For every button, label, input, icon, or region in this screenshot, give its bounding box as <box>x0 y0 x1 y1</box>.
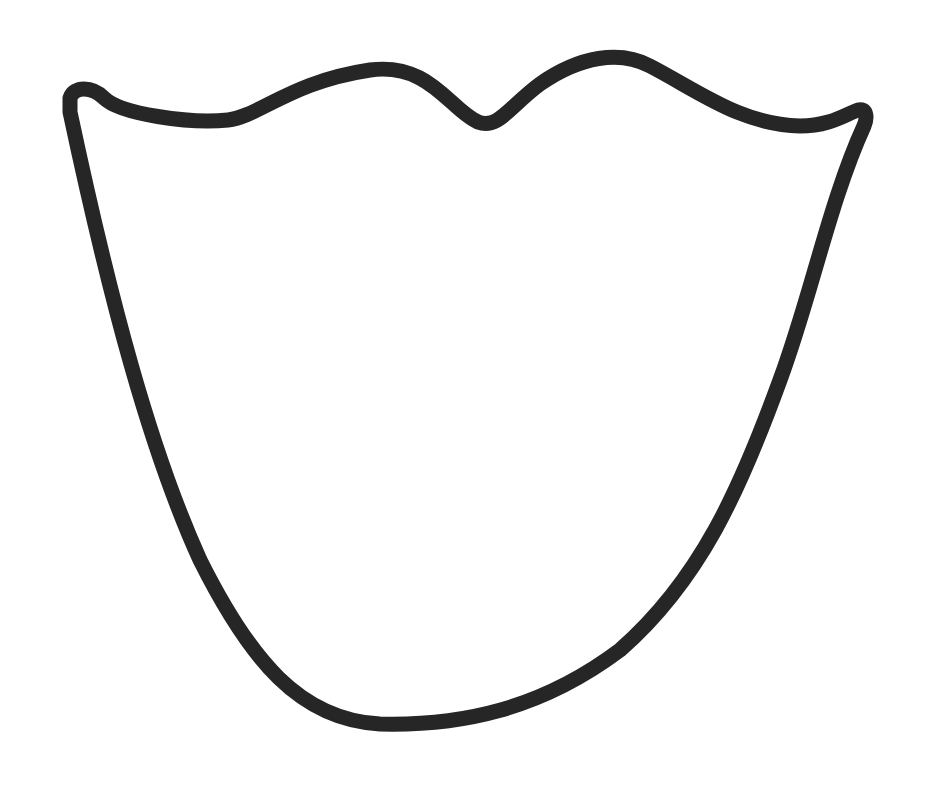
lips-outline-shape <box>70 57 866 724</box>
drawing-canvas <box>0 0 928 786</box>
